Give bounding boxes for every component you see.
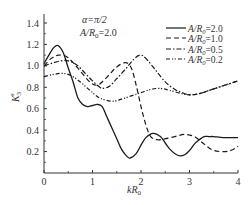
x-tick-label: 0 [42,176,47,187]
annotation-ratio-val: =2.0 [99,27,117,38]
y-label-sub: 3 [15,91,23,95]
svg-text:K3s: K3s [8,91,23,103]
y-tick-label: 0.4 [27,125,40,136]
annotation-ratio-main: A/R [79,27,95,38]
legend-label: A/R0=1.0 [187,34,223,45]
y-tick-label: 0.6 [27,103,40,114]
x-tick-label: 1 [90,176,95,187]
y-tick-label: 1.4 [27,18,40,29]
y-label-sup: s [8,93,16,96]
legend: A/R0=2.0A/R0=1.0A/R0=0.5A/R0=0.2 [166,24,223,66]
y-tick-label: 0.8 [27,82,40,93]
annotation-alpha: α=π/2 [82,14,107,25]
annotation-ratio: A/R0=2.0 [79,27,117,40]
y-tick-label: 1.0 [27,60,40,71]
x-tick-label: 3 [187,176,192,187]
x-label-main: kR [127,184,138,195]
y-tick-label: 1.2 [27,39,40,50]
legend-label: A/R0=0.2 [187,55,223,66]
series-line-dash-dot-dot [44,73,238,101]
x-tick-label: 4 [236,176,241,187]
y-axis-label: K3s [8,91,23,103]
x-tick-label: 2 [139,176,144,187]
chart: 0.20.40.60.81.01.21.4 01234 K3s kR0 α=π/… [0,0,252,205]
x-label-sub: 0 [138,189,142,197]
y-tick-label: 0.2 [27,146,40,157]
